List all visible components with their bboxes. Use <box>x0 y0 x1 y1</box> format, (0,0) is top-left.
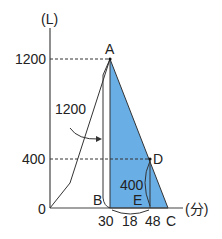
x-label-18: 18 <box>122 213 138 229</box>
graph-diagram: (L) (分) 1200 400 0 A B C D E 30 18 48 12… <box>0 0 222 239</box>
point-c-label: C <box>166 213 176 229</box>
fill-line-oa <box>50 59 110 208</box>
y-unit-label: (L) <box>41 11 58 27</box>
point-d-dot <box>148 157 151 160</box>
arrow-1200 <box>70 128 99 139</box>
point-b-label: B <box>93 192 102 208</box>
y-tick-400: 400 <box>22 151 46 167</box>
point-e-label: E <box>133 192 142 208</box>
point-a-label: A <box>105 41 115 57</box>
x-label-30: 30 <box>98 213 114 229</box>
graph-svg: (L) (分) 1200 400 0 A B C D E 30 18 48 12… <box>0 0 222 239</box>
y-tick-1200: 1200 <box>15 51 46 67</box>
arrow-head-icon <box>96 136 102 142</box>
x-label-48: 48 <box>145 213 161 229</box>
x-unit-label: (分) <box>185 201 208 217</box>
y-tick-0: 0 <box>38 201 46 217</box>
annotation-400: 400 <box>120 177 144 193</box>
point-a-dot <box>108 57 111 60</box>
point-d-label: D <box>153 151 163 167</box>
annotation-1200: 1200 <box>55 101 86 117</box>
brace-30 <box>103 59 110 208</box>
